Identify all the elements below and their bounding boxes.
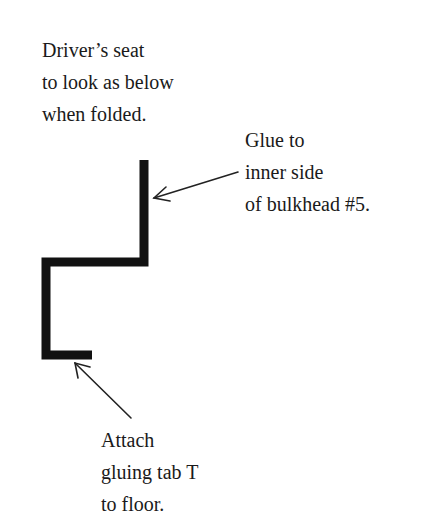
seat-profile-line: [46, 160, 144, 355]
seat-note-line-3: when folded.: [42, 98, 174, 130]
seat-note-line-1: Driver’s seat: [42, 34, 174, 66]
attach-note-line-3: to floor.: [101, 488, 198, 520]
arrow-to-tab-icon: [75, 363, 131, 418]
glue-note: Glue to inner side of bulkhead #5.: [245, 124, 370, 220]
glue-note-line-1: Glue to: [245, 124, 370, 156]
seat-note: Driver’s seat to look as below when fold…: [42, 34, 174, 130]
arrow-to-bulkhead-icon: [154, 172, 238, 201]
seat-note-line-2: to look as below: [42, 66, 174, 98]
attach-note-line-2: gluing tab T: [101, 456, 198, 488]
glue-note-line-3: of bulkhead #5.: [245, 188, 370, 220]
glue-note-line-2: inner side: [245, 156, 370, 188]
attach-note-line-1: Attach: [101, 424, 198, 456]
attach-note: Attach gluing tab T to floor.: [101, 424, 198, 520]
